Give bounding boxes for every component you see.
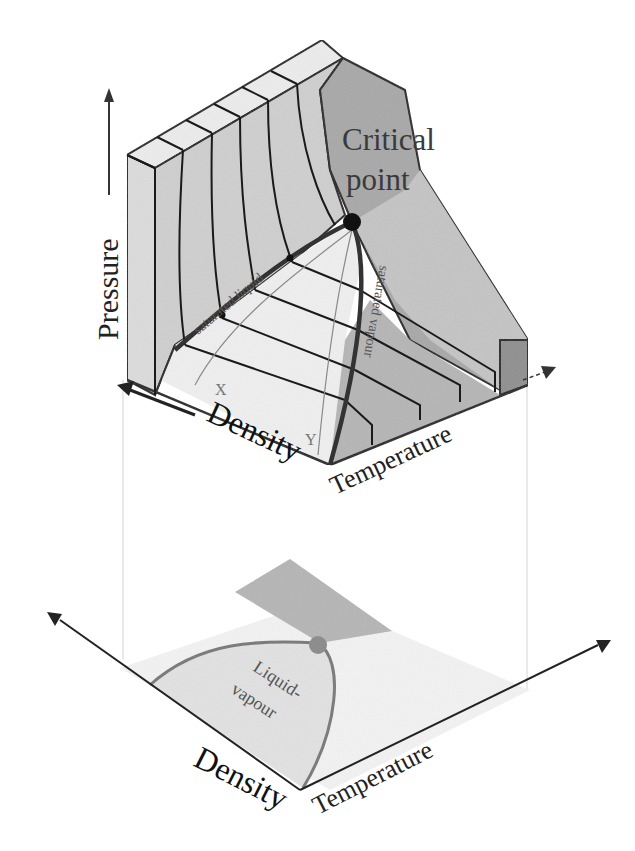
critical-point-label-1: Critical: [342, 122, 435, 157]
critical-point-projection: [309, 636, 327, 654]
temperature-arrow-icon-bottom: [596, 640, 611, 653]
point-y-label: Y: [305, 431, 317, 448]
phase-diagram: Critical point saturated liquid saturate…: [0, 0, 635, 851]
top-3d-surface: [127, 40, 528, 465]
bottom-projection: [120, 559, 530, 790]
critical-point-label-2: point: [346, 162, 410, 197]
density-arrow-icon-bottom: [47, 612, 62, 626]
density-arrow-icon: [117, 381, 134, 396]
critical-point-marker: [343, 213, 361, 231]
liquid-point: [287, 255, 294, 262]
pressure-arrow-icon: [104, 88, 114, 102]
pressure-axis-label: Pressure: [91, 238, 124, 340]
liquid-front-face: [127, 155, 155, 395]
